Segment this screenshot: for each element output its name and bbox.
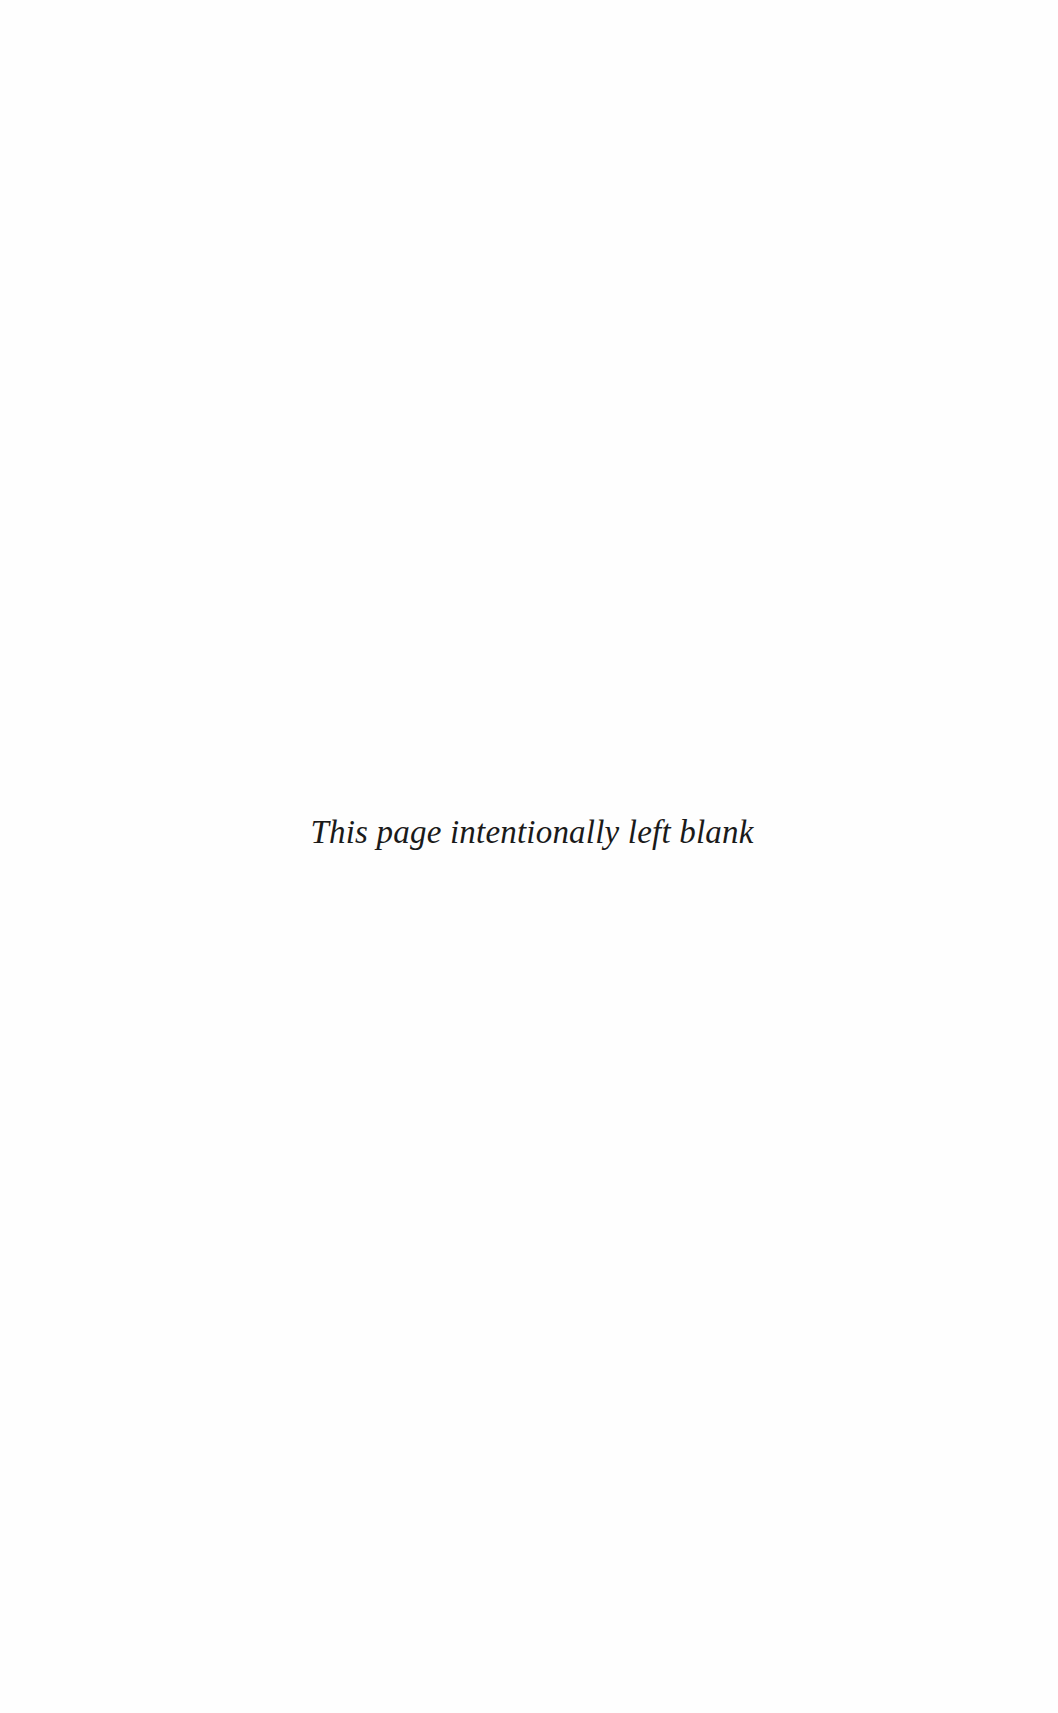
blank-page-notice: This page intentionally left blank	[0, 814, 1058, 851]
blank-page: This page intentionally left blank	[0, 0, 1058, 1713]
